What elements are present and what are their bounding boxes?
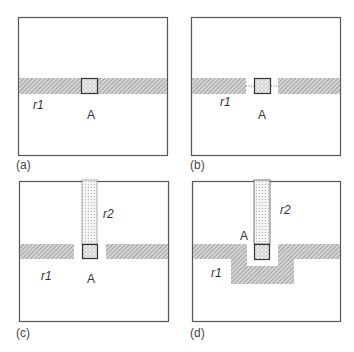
panel-c: r2 r1 A (c) <box>16 180 169 340</box>
label-r1: r1 <box>211 266 222 280</box>
caption-b: (b) <box>190 158 205 172</box>
cell-a <box>255 79 271 94</box>
panel-d: r2 A r1 (d) <box>190 180 341 340</box>
label-a: A <box>258 108 266 122</box>
panel-b: r1 A (b) <box>190 18 341 173</box>
label-r2: r2 <box>280 203 291 217</box>
panel-a: r1 A (a) <box>16 18 168 173</box>
label-r1: r1 <box>41 269 52 283</box>
region-r1-left <box>20 244 74 259</box>
region-r1-right <box>106 244 168 259</box>
cell-a <box>255 245 270 260</box>
label-a: A <box>87 272 95 286</box>
cell-a <box>83 245 98 259</box>
label-r1: r1 <box>220 95 231 109</box>
caption-c: (c) <box>16 326 30 340</box>
region-r2-bar <box>254 180 270 244</box>
label-r2: r2 <box>103 207 114 221</box>
region-r2-bar <box>82 180 97 244</box>
cell-a <box>82 79 98 94</box>
label-a: A <box>240 229 248 243</box>
caption-d: (d) <box>190 326 205 340</box>
region-r1-right <box>278 78 340 94</box>
caption-a: (a) <box>16 158 31 172</box>
region-r1-left <box>192 78 246 94</box>
diagram-canvas: r1 A (a) r1 A (b) r2 r1 A (c) r2 A r1 (d… <box>0 0 354 352</box>
label-r1: r1 <box>33 98 44 112</box>
label-a: A <box>87 108 95 122</box>
